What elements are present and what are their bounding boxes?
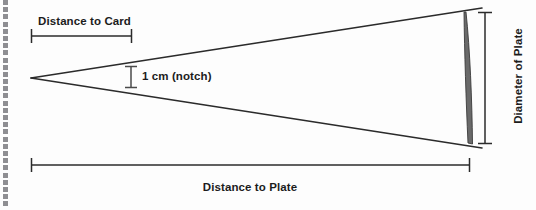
label-diameter-of-plate: Diameter of Plate — [512, 6, 524, 146]
plate-shape — [464, 12, 473, 144]
cone-lower-ray — [31, 78, 482, 148]
bracket-distance-to-card — [31, 29, 132, 43]
bracket-distance-to-plate — [31, 158, 470, 172]
diagram-canvas: Distance to Card 1 cm (notch) Distance t… — [0, 0, 536, 210]
bracket-diameter-of-plate — [478, 12, 492, 144]
label-distance-to-card: Distance to Card — [38, 15, 131, 27]
cone-diagram-svg — [0, 0, 536, 210]
label-notch-1cm: 1 cm (notch) — [142, 70, 212, 82]
label-distance-to-plate: Distance to Plate — [0, 181, 500, 193]
bracket-notch-1cm — [125, 66, 137, 88]
